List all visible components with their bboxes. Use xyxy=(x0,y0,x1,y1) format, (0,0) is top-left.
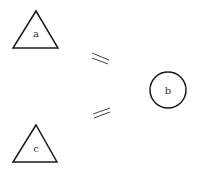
node-label-b: b xyxy=(165,85,171,96)
edge-marker-c-b xyxy=(93,108,110,118)
diagram-canvas: a b c xyxy=(0,0,197,173)
node-b: b xyxy=(150,72,186,108)
node-c: c xyxy=(13,125,57,162)
edge-marker-a-b xyxy=(92,53,109,64)
node-label-a: a xyxy=(33,28,39,39)
node-label-c: c xyxy=(33,143,39,154)
node-a: a xyxy=(13,11,58,48)
